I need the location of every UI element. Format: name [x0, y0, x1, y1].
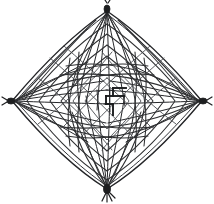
mesh-lines-secondary — [38, 46, 176, 150]
mesh-lines-primary — [22, 20, 192, 180]
knot-bottom — [102, 185, 115, 203]
knot-top — [104, 0, 110, 13]
knot-left — [2, 97, 15, 105]
image-canvas: Cargo net Hand-drawn diamond-shaped rope… — [0, 0, 214, 204]
net-outer-border — [13, 11, 201, 189]
knot-right — [199, 97, 212, 105]
cargo-net-drawing — [0, 0, 214, 204]
